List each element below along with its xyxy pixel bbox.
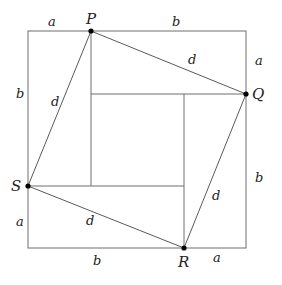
point-s <box>25 183 30 188</box>
segment-rs <box>28 186 184 248</box>
segment-qr <box>184 94 246 248</box>
segment-sp <box>28 31 91 186</box>
label-left-a: a <box>16 214 24 229</box>
label-p: P <box>85 10 97 28</box>
pythagorean-diagram: P Q R S a b a b a b a b d d d d <box>0 0 282 285</box>
label-d-qr: d <box>212 188 220 203</box>
label-bottom-b: b <box>93 253 101 268</box>
label-top-a: a <box>48 14 56 29</box>
label-d-pq: d <box>188 52 196 67</box>
label-r: R <box>177 253 189 271</box>
point-r <box>181 245 186 250</box>
label-top-b: b <box>172 14 180 29</box>
segment-pq <box>91 31 246 94</box>
label-d-sp: d <box>51 94 59 109</box>
label-q: Q <box>252 85 264 103</box>
outer-square <box>28 31 246 248</box>
label-bottom-a: a <box>213 250 221 265</box>
point-q <box>243 91 248 96</box>
label-left-b: b <box>16 86 24 101</box>
label-d-rs: d <box>86 213 94 228</box>
label-right-b: b <box>255 170 263 185</box>
point-p <box>88 28 93 33</box>
label-s: S <box>11 177 21 195</box>
label-right-a: a <box>255 53 263 68</box>
